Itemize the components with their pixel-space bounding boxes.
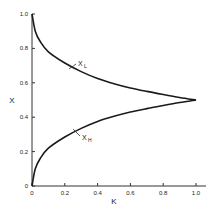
x-tick-label: 0.4 xyxy=(93,190,102,196)
x-axis-label: K xyxy=(111,197,117,206)
curve-label-xl-sub: L xyxy=(84,63,87,69)
y-tick-label: 0.2 xyxy=(20,149,29,155)
y-axis-label: X xyxy=(9,96,15,105)
curve-x-l xyxy=(32,14,196,100)
x-tick-label: 1.0 xyxy=(192,190,201,196)
curve-label-xh-sub: H xyxy=(88,137,92,143)
chart: 00.20.40.60.81.000.20.40.60.81.0KX XLXH xyxy=(0,0,215,214)
y-tick-label: 0 xyxy=(25,183,29,189)
x-tick-label: 0 xyxy=(30,190,34,196)
curve-label-xh: X xyxy=(82,134,87,141)
y-tick-label: 1.0 xyxy=(20,11,29,17)
curve-x-h xyxy=(32,100,196,186)
x-tick-label: 0.2 xyxy=(61,190,70,196)
labels: XLXH xyxy=(69,60,92,143)
x-tick-label: 0.6 xyxy=(126,190,135,196)
curves xyxy=(32,14,196,186)
curve-label-xl: X xyxy=(78,60,83,67)
x-tick-label: 0.8 xyxy=(159,190,168,196)
y-tick-label: 0.8 xyxy=(20,45,29,51)
y-tick-label: 0.6 xyxy=(20,80,29,86)
y-tick-label: 0.4 xyxy=(20,114,29,120)
